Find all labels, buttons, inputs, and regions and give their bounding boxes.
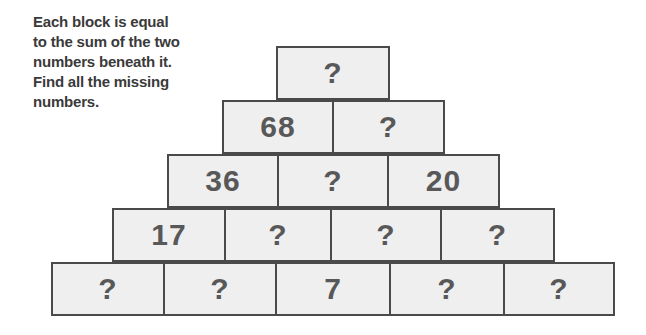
pyramid-block[interactable]: 36	[167, 154, 279, 208]
pyramid-row-2: 68 ?	[222, 100, 445, 154]
pyramid-block[interactable]: ?	[276, 46, 390, 100]
pyramid-block[interactable]: ?	[277, 154, 389, 208]
pyramid-row-3: 36 ? 20	[167, 154, 500, 208]
pyramid-row-5: ? ? 7 ? ?	[51, 262, 615, 316]
pyramid-block[interactable]: ?	[332, 100, 445, 154]
pyramid-block[interactable]: ?	[440, 208, 555, 262]
pyramid-block[interactable]: ?	[503, 262, 615, 316]
pyramid-block[interactable]: 17	[112, 208, 226, 262]
pyramid-block[interactable]: ?	[330, 208, 442, 262]
pyramid-row-1: ?	[276, 46, 390, 100]
pyramid-block[interactable]: 68	[222, 100, 334, 154]
pyramid-block[interactable]: ?	[163, 262, 277, 316]
pyramid-row-4: 17 ? ? ?	[112, 208, 555, 262]
pyramid-block[interactable]: ?	[389, 262, 505, 316]
pyramid-block[interactable]: ?	[224, 208, 332, 262]
number-pyramid: ? 68 ? 36 ? 20 17 ? ? ? ? ? 7 ? ?	[0, 0, 646, 335]
pyramid-block[interactable]: 20	[387, 154, 500, 208]
pyramid-block[interactable]: ?	[51, 262, 165, 316]
pyramid-block[interactable]: 7	[275, 262, 391, 316]
